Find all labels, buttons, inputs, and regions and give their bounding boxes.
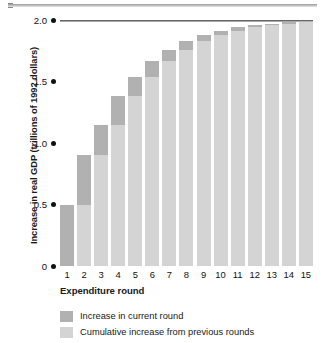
y-axis-tick-label: 0 (42, 261, 47, 272)
y-axis-tick-marker (51, 141, 56, 146)
x-axis-tick-label: 2 (77, 269, 91, 280)
bar-segment-cumulative (248, 27, 262, 266)
bar-segment-current-round (145, 61, 159, 77)
y-axis-tick-marker (51, 18, 56, 23)
y-axis-tick-marker (51, 79, 56, 84)
bar-column (162, 20, 176, 266)
plot-area: 2.01.51.00.50 (60, 20, 313, 266)
y-axis-tick-marker (51, 264, 56, 269)
bar-segment-cumulative (94, 155, 108, 266)
legend-label: Increase in current round (80, 311, 183, 321)
x-axis-tick-label: 5 (128, 269, 142, 280)
legend-item: Cumulative increase from previous rounds (60, 324, 315, 340)
bar-column (145, 20, 159, 266)
bar-column (265, 20, 279, 266)
bar-column (299, 20, 313, 266)
bar-segment-cumulative (145, 77, 159, 266)
x-axis-tick-label: 4 (111, 269, 125, 280)
bar-segment-current-round (128, 77, 142, 97)
y-axis-tick-label: 1.5 (34, 76, 47, 87)
x-axis-tick-label: 3 (94, 269, 108, 280)
x-axis-tick-label: 13 (265, 269, 279, 280)
bar-segment-cumulative (282, 24, 296, 266)
x-axis-tick-label: 12 (248, 269, 262, 280)
x-axis-tick-label: 7 (162, 269, 176, 280)
bar-segment-current-round (162, 50, 176, 61)
y-axis-tick-label: 1.0 (34, 138, 47, 149)
x-axis-tick-label: 9 (197, 269, 211, 280)
bar-segment-cumulative (231, 31, 245, 266)
bar-segment-cumulative (299, 22, 313, 266)
bar-segment-cumulative (179, 50, 193, 266)
bar-segment-cumulative (111, 125, 125, 266)
x-axis-tick-labels: 123456789101112131415 (60, 269, 313, 280)
x-axis-tick-label: 14 (282, 269, 296, 280)
bar-segment-cumulative (197, 41, 211, 266)
bar-segment-current-round (111, 96, 125, 124)
bar-segment-current-round (94, 125, 108, 156)
legend-swatch (60, 327, 73, 338)
legend-item: Increase in current round (60, 308, 315, 324)
bar-segment-current-round (77, 155, 91, 204)
bar-column (231, 20, 245, 266)
bar-column (197, 20, 211, 266)
bar-column (248, 20, 262, 266)
bar-column (214, 20, 228, 266)
x-axis-tick-label: 11 (231, 269, 245, 280)
bar-segment-current-round (60, 205, 74, 267)
x-axis-title: Expenditure round (60, 285, 144, 296)
bar-column (111, 20, 125, 266)
bar-column (128, 20, 142, 266)
y-axis-tick-label: 2.0 (34, 15, 47, 26)
y-axis-tick-marker (51, 202, 56, 207)
legend-swatch (60, 311, 73, 322)
bar-column (77, 20, 91, 266)
bar-column (94, 20, 108, 266)
legend-label: Cumulative increase from previous rounds (80, 327, 254, 337)
x-axis-tick-label: 15 (299, 269, 313, 280)
bar-column (60, 20, 74, 266)
bar-segment-cumulative (162, 61, 176, 266)
y-axis-tick-label: 0.5 (34, 199, 47, 210)
bar-segment-cumulative (265, 25, 279, 266)
x-axis-tick-label: 8 (179, 269, 193, 280)
bar-segment-cumulative (214, 35, 228, 266)
bar-group (60, 20, 313, 266)
bar-segment-current-round (179, 41, 193, 50)
chart-legend: Increase in current roundCumulative incr… (60, 308, 315, 340)
x-axis-tick-label: 10 (214, 269, 228, 280)
bar-column (282, 20, 296, 266)
bar-column (179, 20, 193, 266)
chart-figure: Increase in real GDP (trillions of 1992 … (0, 0, 323, 343)
x-axis-tick-label: 6 (145, 269, 159, 280)
bar-segment-cumulative (77, 205, 91, 267)
x-axis-tick-label: 1 (60, 269, 74, 280)
bar-segment-cumulative (128, 96, 142, 266)
